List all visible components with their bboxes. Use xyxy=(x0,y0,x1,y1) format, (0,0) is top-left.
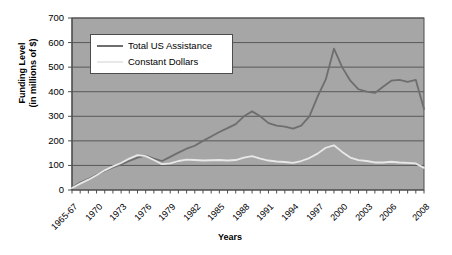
legend-swatch-icon xyxy=(97,61,123,63)
x-axis-title: Years xyxy=(150,232,310,242)
legend-swatch-icon xyxy=(97,45,123,47)
legend-item-constant-dollars: Constant Dollars xyxy=(95,54,228,70)
legend-label: Total US Assistance xyxy=(128,41,212,51)
chart-legend: Total US Assistance Constant Dollars xyxy=(90,34,233,74)
legend-label: Constant Dollars xyxy=(128,57,198,67)
chart-container: Funding Level (in millions of $) 7006005… xyxy=(0,0,452,255)
legend-item-total-us-assistance: Total US Assistance xyxy=(95,38,228,54)
